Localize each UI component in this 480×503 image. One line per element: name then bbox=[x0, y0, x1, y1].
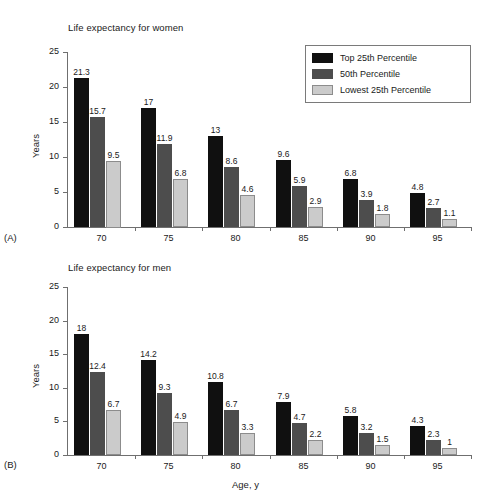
y-tick-mark bbox=[63, 192, 67, 193]
bar bbox=[375, 445, 390, 455]
y-tick-label: 25 bbox=[33, 281, 59, 291]
bar bbox=[208, 136, 223, 227]
x-tick-mark bbox=[135, 227, 136, 231]
y-tick-label: 25 bbox=[33, 46, 59, 56]
x-tick-label: 85 bbox=[270, 233, 337, 243]
panel-b-x-axis-line bbox=[67, 455, 471, 456]
bar bbox=[240, 433, 255, 455]
bar bbox=[308, 207, 323, 227]
y-tick-label: 10 bbox=[33, 151, 59, 161]
x-tick-label: 95 bbox=[404, 233, 471, 243]
bar-value-label: 3.2 bbox=[353, 422, 380, 432]
bar-value-label: 12.4 bbox=[84, 361, 111, 371]
bar-value-label: 13 bbox=[202, 125, 229, 135]
y-tick-label: 20 bbox=[33, 315, 59, 325]
chart-panel-women: Life expectancy for women (A) Years 0510… bbox=[0, 0, 480, 258]
bar-value-label: 7.9 bbox=[270, 391, 297, 401]
y-tick-mark bbox=[63, 287, 67, 288]
y-tick-mark bbox=[63, 122, 67, 123]
x-tick-label: 90 bbox=[337, 461, 404, 471]
x-tick-label: 85 bbox=[270, 461, 337, 471]
bar-value-label: 6.7 bbox=[100, 399, 127, 409]
y-tick-label: 20 bbox=[33, 81, 59, 91]
bar bbox=[308, 440, 323, 455]
legend-label-top-25: Top 25th Percentile bbox=[340, 53, 417, 63]
bar bbox=[90, 372, 105, 455]
bar-value-label: 9.6 bbox=[270, 149, 297, 159]
bar bbox=[292, 423, 307, 455]
x-tick-mark bbox=[270, 227, 271, 231]
x-tick-mark bbox=[404, 227, 405, 231]
bar-value-label: 1.1 bbox=[436, 208, 463, 218]
bar-value-label: 1.5 bbox=[369, 434, 396, 444]
legend: Top 25th Percentile 50th Percentile Lowe… bbox=[305, 45, 471, 103]
bar-value-label: 17 bbox=[135, 97, 162, 107]
bar-value-label: 5.8 bbox=[337, 405, 364, 415]
legend-swatch-icon-50th bbox=[312, 69, 333, 79]
bar-value-label: 6.7 bbox=[218, 399, 245, 409]
y-tick-mark bbox=[63, 52, 67, 53]
y-tick-label: 15 bbox=[33, 348, 59, 358]
y-tick-mark bbox=[63, 421, 67, 422]
bar-value-label: 2.9 bbox=[302, 196, 329, 206]
bar-value-label: 18 bbox=[68, 323, 95, 333]
bar-value-label: 2.2 bbox=[302, 429, 329, 439]
x-tick-mark bbox=[202, 227, 203, 231]
x-tick-mark bbox=[337, 455, 338, 459]
bar bbox=[90, 117, 105, 227]
y-tick-mark bbox=[63, 388, 67, 389]
bar bbox=[292, 186, 307, 227]
x-tick-label: 95 bbox=[404, 461, 471, 471]
panel-a-y-axis-line bbox=[67, 52, 68, 228]
life-expectancy-figure: Life expectancy for women (A) Years 0510… bbox=[0, 0, 480, 503]
panel-b-title: Life expectancy for men bbox=[68, 262, 171, 273]
bar bbox=[74, 78, 89, 227]
bar-value-label: 15.7 bbox=[84, 106, 111, 116]
bar bbox=[157, 144, 172, 227]
bar bbox=[224, 410, 239, 455]
x-tick-label: 80 bbox=[202, 233, 269, 243]
legend-swatch-icon-lowest-25 bbox=[312, 85, 333, 95]
x-tick-label: 80 bbox=[202, 461, 269, 471]
legend-label-lowest-25: Lowest 25th Percentile bbox=[340, 85, 431, 95]
bar bbox=[74, 334, 89, 455]
bar bbox=[141, 360, 156, 455]
panel-b-y-axis-line bbox=[67, 287, 68, 456]
bar bbox=[442, 219, 457, 227]
legend-swatch-icon-top-25 bbox=[312, 53, 333, 63]
bar-value-label: 21.3 bbox=[68, 67, 95, 77]
y-tick-mark bbox=[63, 87, 67, 88]
bar bbox=[343, 179, 358, 227]
x-tick-label: 70 bbox=[68, 233, 135, 243]
bar bbox=[224, 167, 239, 227]
bar bbox=[442, 448, 457, 455]
legend-item-lowest-25: Lowest 25th Percentile bbox=[312, 82, 463, 98]
panel-a-x-axis-line bbox=[67, 227, 471, 228]
bar-value-label: 1 bbox=[436, 437, 463, 447]
bar-value-label: 8.6 bbox=[218, 156, 245, 166]
y-tick-mark bbox=[63, 455, 67, 456]
y-tick-mark bbox=[63, 354, 67, 355]
legend-label-50th: 50th Percentile bbox=[340, 69, 400, 79]
bar-value-label: 4.6 bbox=[234, 184, 261, 194]
y-tick-label: 0 bbox=[33, 221, 59, 231]
panel-b-x-axis-title: Age, y bbox=[232, 479, 259, 490]
legend-item-top-25: Top 25th Percentile bbox=[312, 50, 463, 66]
x-tick-mark bbox=[202, 455, 203, 459]
bar bbox=[173, 422, 188, 455]
bar bbox=[240, 195, 255, 227]
bar-value-label: 14.2 bbox=[135, 349, 162, 359]
bar-value-label: 11.9 bbox=[151, 133, 178, 143]
x-tick-mark bbox=[270, 455, 271, 459]
bar-value-label: 10.8 bbox=[202, 371, 229, 381]
bar-value-label: 5.9 bbox=[286, 175, 313, 185]
bar-value-label: 1.8 bbox=[369, 203, 396, 213]
y-tick-label: 0 bbox=[33, 449, 59, 459]
bar-value-label: 4.3 bbox=[404, 415, 431, 425]
bar bbox=[276, 402, 291, 455]
bar-value-label: 3.9 bbox=[353, 189, 380, 199]
bar bbox=[106, 410, 121, 455]
bar-value-label: 6.8 bbox=[167, 168, 194, 178]
panel-a-tag: (A) bbox=[4, 232, 17, 243]
y-tick-mark bbox=[63, 321, 67, 322]
